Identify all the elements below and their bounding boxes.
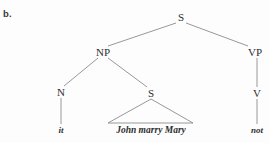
tree-edge-np-to-s [108, 58, 147, 87]
syntax-tree-figure: b. S NP VP N S V it John marry Mary not [0, 0, 269, 143]
tree-node-s-inner: S [148, 87, 154, 99]
tree-edge-np-to-n [64, 58, 98, 86]
tree-node-n: N [57, 86, 65, 98]
tree-terminal-not: not [251, 125, 263, 135]
s-inner-triangle [108, 99, 193, 123]
tree-terminal-sent: John marry Mary [116, 125, 186, 135]
tree-edge-s-to-np [108, 23, 176, 46]
tree-node-s-root: S [178, 11, 184, 23]
tree-node-vp: VP [248, 46, 262, 58]
tree-node-v: V [253, 87, 261, 99]
tree-edge-s-to-vp [186, 23, 248, 46]
tree-node-np: NP [96, 46, 110, 58]
tree-terminal-it: it [58, 125, 63, 135]
tree-branch-lines [0, 0, 269, 143]
